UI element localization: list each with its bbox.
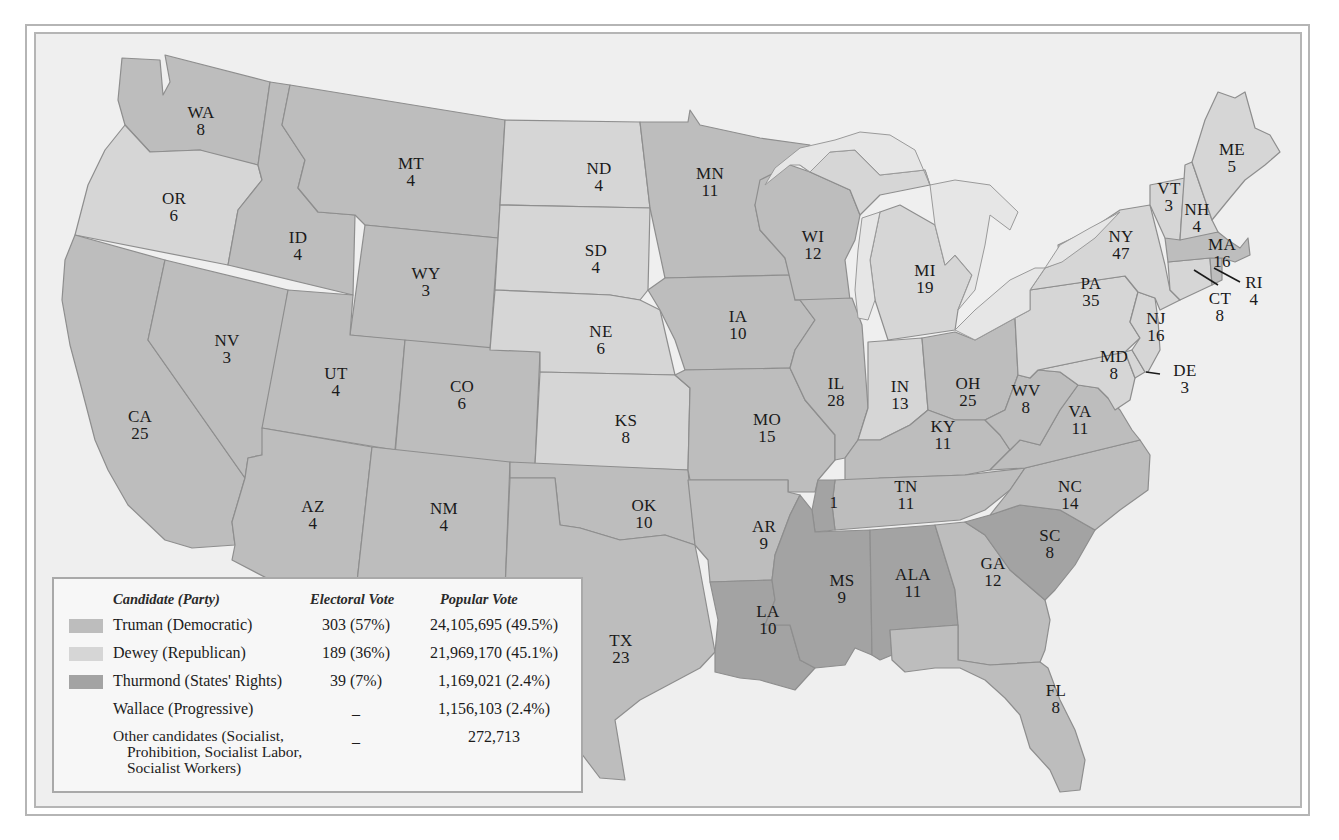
label-ME: ME5: [1219, 141, 1245, 175]
label-WV: WV8: [1012, 382, 1041, 416]
label-DE: DE3: [1173, 362, 1196, 396]
label-VT: VT3: [1157, 180, 1180, 214]
popular-vote: 24,105,695 (49.5%): [406, 616, 582, 634]
label-ID: ID4: [289, 229, 308, 263]
label-IA: IA10: [729, 308, 748, 342]
label-FL: FL8: [1046, 682, 1066, 716]
label-PA: PA35: [1081, 275, 1102, 309]
label-WY: WY3: [412, 265, 441, 299]
electoral-vote: _: [304, 700, 408, 718]
label-WI: WI12: [802, 228, 824, 262]
label-GA: GA12: [980, 555, 1005, 589]
label-NC: NC14: [1058, 478, 1082, 512]
legend-row-wallace: Wallace (Progressive) _ 1,156,103 (2.4%): [54, 700, 581, 720]
popular-vote: 272,713: [406, 728, 582, 746]
label-MI: MI19: [914, 262, 935, 296]
label-MO: MO15: [753, 411, 781, 445]
electoral-vote: 39 (7%): [304, 672, 408, 690]
label-IN: IN13: [891, 378, 910, 412]
state-CT[interactable]: [1168, 258, 1212, 300]
label-AR: AR9: [752, 518, 776, 552]
candidate-name: Truman (Democratic): [113, 616, 252, 634]
legend-header-electoral: Electoral Vote: [310, 591, 394, 608]
state-KS[interactable]: [535, 372, 690, 470]
label-NJ: NJ16: [1146, 310, 1166, 344]
label-WA: WA8: [187, 104, 214, 138]
label-ALA: ALA11: [895, 566, 931, 600]
legend-row-others: Other candidates (Socialist, Prohibition…: [54, 728, 581, 788]
label-TN-split: 1: [830, 494, 839, 511]
popular-vote: 1,169,021 (2.4%): [406, 672, 582, 690]
label-MN: MN11: [696, 165, 724, 199]
electoral-vote: _: [304, 728, 408, 746]
label-SD: SD4: [585, 242, 607, 276]
legend-box: Candidate (Party) Electoral Vote Popular…: [52, 577, 583, 793]
candidate-name: Other candidates (Socialist, Prohibition…: [113, 728, 303, 776]
label-LA: LA10: [756, 603, 779, 637]
label-NV: NV3: [214, 332, 239, 366]
legend-header-popular: Popular Vote: [440, 591, 518, 608]
label-OK: OK10: [631, 497, 656, 531]
label-MA: MA16: [1208, 236, 1236, 270]
candidate-name: Wallace (Progressive): [113, 700, 253, 718]
state-ND[interactable]: [500, 120, 650, 208]
swatch-truman: [69, 619, 103, 633]
label-UT: UT4: [324, 365, 347, 399]
label-ND: ND4: [586, 160, 611, 194]
label-IL: IL28: [827, 375, 845, 409]
electoral-vote: 303 (57%): [304, 616, 408, 634]
popular-vote: 21,969,170 (45.1%): [406, 644, 582, 662]
label-OH: OH25: [955, 375, 980, 409]
label-OR: OR6: [162, 190, 186, 224]
label-NH: NH4: [1184, 201, 1209, 235]
label-TN: TN11: [894, 478, 917, 512]
state-SD[interactable]: [495, 205, 650, 300]
label-KY: KY11: [930, 418, 955, 452]
swatch-thurmond: [69, 675, 103, 689]
legend-header-candidate: Candidate (Party): [113, 591, 220, 608]
legend-row-dewey: Dewey (Republican) 189 (36%) 21,969,170 …: [54, 644, 581, 664]
popular-vote: 1,156,103 (2.4%): [406, 700, 582, 718]
label-SC: SC8: [1039, 527, 1060, 561]
candidate-name: Thurmond (States' Rights): [113, 672, 282, 690]
legend-row-thurmond: Thurmond (States' Rights) 39 (7%) 1,169,…: [54, 672, 581, 692]
electoral-vote: 189 (36%): [304, 644, 408, 662]
label-NE: NE6: [589, 323, 612, 357]
label-CO: CO6: [450, 378, 474, 412]
label-TX: TX23: [609, 632, 632, 666]
label-CA: CA25: [128, 408, 152, 442]
de-leader-line: [1146, 372, 1160, 374]
label-NY: NY47: [1108, 228, 1133, 262]
swatch-dewey: [69, 647, 103, 661]
label-AZ: AZ4: [301, 498, 324, 532]
label-MT: MT4: [398, 155, 424, 189]
label-MS: MS9: [829, 572, 854, 606]
legend-row-truman: Truman (Democratic) 303 (57%) 24,105,695…: [54, 616, 581, 636]
label-KS: KS8: [615, 412, 637, 446]
label-NM: NM4: [430, 500, 458, 534]
label-VA: VA11: [1069, 403, 1092, 437]
label-CT: CT8: [1209, 290, 1231, 324]
label-RI: RI4: [1245, 274, 1263, 308]
candidate-name: Dewey (Republican): [113, 644, 246, 662]
label-MD: MD8: [1100, 348, 1128, 382]
